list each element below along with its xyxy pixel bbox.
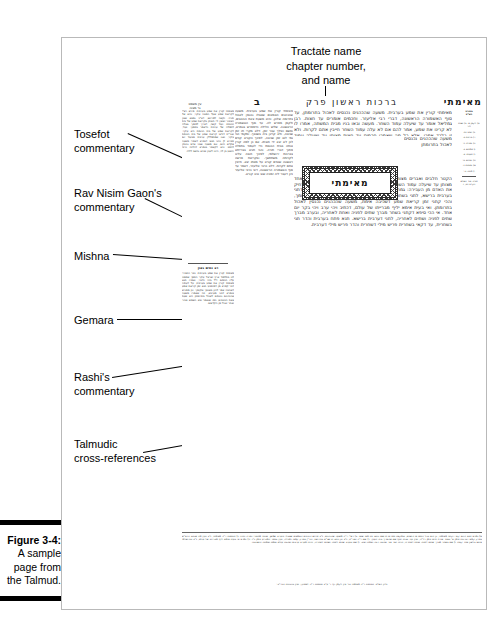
rav-nisim-gaon-text: מאימתי קורין את שמע בערבית. כבר התברר לנ… bbox=[182, 272, 234, 524]
cross-reference-item: ג) יומא כח. bbox=[456, 131, 482, 134]
cross-reference-item: ז) תענית יב. bbox=[456, 153, 482, 156]
bottom-notes-text: א) גמרא תנא היכא קאי דקתני מאימתי, כן הו… bbox=[182, 535, 482, 582]
cross-reference-item: ה) מגילה כ: bbox=[456, 142, 482, 145]
ornamental-chapter-box: מאימתי bbox=[302, 166, 398, 200]
caption-top-rule bbox=[0, 520, 65, 525]
cross-reference-item: א) לקמן ט. ב) שבת לה: bbox=[456, 122, 482, 128]
ornamental-box-inner: מאימתי bbox=[309, 172, 391, 194]
column-talmudic-cross-references: מסורת הש"ס א) לקמן ט. ב) שבת לה: ג) יומא… bbox=[456, 110, 482, 186]
figure-caption-line-1: A sample bbox=[0, 547, 61, 560]
mishna-opening-text: מאימתי קורין את שמע בערבית. משעה שהכהנים… bbox=[294, 110, 452, 136]
talmud-page-body: מסורת הש"ס א) לקמן ט. ב) שבת לה: ג) יומא… bbox=[182, 110, 482, 530]
cross-reference-divider bbox=[462, 176, 476, 177]
talmud-page-header: מאימתי ברכות ראשון פרק ב עין משפט נר מצו… bbox=[182, 96, 482, 109]
figure-number: Figure 3-4: bbox=[0, 534, 61, 547]
header-tractate-name: מאימתי bbox=[444, 97, 482, 107]
callout-label-tosefot: Tosefot commentary bbox=[74, 127, 135, 155]
gemara-body-text: הקטר חלבים ואברים מצותן עד שיעלה עמוד הש… bbox=[294, 176, 452, 524]
talmud-page-bottom-notes: א) גמרא תנא היכא קאי דקתני מאימתי, כן הו… bbox=[182, 532, 482, 590]
tosefot-divider bbox=[188, 263, 228, 264]
column-rashi-commentary: מאימתי קורין את שמע בערבית. משעה שהכהנים… bbox=[235, 110, 293, 525]
cross-reference-item: ח) זבחים נו: bbox=[456, 159, 482, 162]
ornamental-chapter-word: מאימתי bbox=[331, 178, 368, 188]
rav-nisim-gaon-heading: רב נסים גאון bbox=[182, 267, 234, 270]
cross-reference-list: א) לקמן ט. ב) שבת לה: ג) יומא כח. ד) ברכ… bbox=[456, 122, 482, 173]
mishna-side-text: משעה שהכהנים נכנסים לאכול בתרומתן bbox=[404, 136, 452, 176]
column-mishna-and-gemara: מאימתי קורין את שמע בערבית. משעה שהכהנים… bbox=[294, 110, 452, 524]
column-tosefot-commentary: מאימתי קורין את שמע בערבית. פירש רש"י דק… bbox=[182, 110, 234, 524]
bottom-notes-last-line: גליון הש"ס. תוספות ד"ה מאימתי וכו' עיין … bbox=[182, 583, 482, 586]
cross-reference-footer: תורה אור השלם ויקרא כב, ז bbox=[456, 180, 482, 186]
rashi-text: מאימתי קורין את שמע בערבית. משעה שהכהנים… bbox=[235, 110, 293, 525]
cross-reference-heading: מסורת הש"ס bbox=[456, 110, 482, 116]
tractate-name-annotation: Tractate name chapter number, and name bbox=[246, 44, 406, 88]
figure-caption-text: Figure 3-4: A sample page from the Talmu… bbox=[0, 534, 65, 588]
talmud-page: מאימתי ברכות ראשון פרק ב עין משפט נר מצו… bbox=[182, 96, 482, 593]
callout-label-gemara: Gemara bbox=[74, 313, 114, 327]
tractate-annotation-line-2: chapter number, bbox=[246, 59, 406, 74]
bottom-notes-divider bbox=[182, 532, 482, 533]
tractate-annotation-line-1: Tractate name bbox=[246, 44, 406, 59]
caption-bottom-rule bbox=[0, 596, 65, 601]
header-chapter-and-tractate: ברכות ראשון פרק bbox=[306, 97, 398, 107]
cross-reference-item: י) סוכה נד: bbox=[456, 170, 482, 173]
figure-caption-line-2: page from bbox=[0, 561, 61, 574]
figure-caption-block: Figure 3-4: A sample page from the Talmu… bbox=[0, 520, 66, 601]
figure-canvas: Figure 3-4: A sample page from the Talmu… bbox=[0, 0, 502, 620]
tosefot-upper-text: מאימתי קורין את שמע בערבית. פירש רש"י דק… bbox=[182, 110, 234, 260]
cross-reference-item: ד) ברכות ב. bbox=[456, 136, 482, 139]
header-folio-number: ב bbox=[254, 96, 260, 107]
cross-reference-item: ו) פסחים ב. bbox=[456, 148, 482, 151]
callout-label-mishna: Mishna bbox=[74, 249, 109, 263]
figure-caption-line-3: the Talmud. bbox=[0, 574, 61, 587]
cross-reference-item: ט) מנחות כ. bbox=[456, 164, 482, 167]
